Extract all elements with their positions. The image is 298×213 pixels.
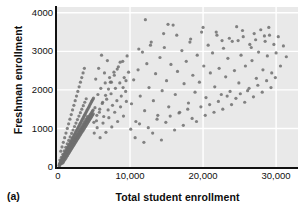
plot-area [57, 7, 298, 167]
x-axis-ticks: 0 10,000 20,000 30,000 [0, 170, 298, 184]
x-axis-line [55, 167, 298, 169]
x-tick-10000: 10,000 [115, 170, 144, 181]
data-points [57, 18, 287, 167]
y-tick-2000: 2000 [1, 85, 53, 95]
plot-canvas [57, 7, 298, 167]
x-axis-title: Total student enrollment [57, 191, 298, 203]
x-tick-0: 0 [55, 170, 60, 181]
y-tick-4000: 4000 [1, 8, 53, 18]
panel-caption: (a) [7, 190, 20, 202]
y-axis-title: Freshman enrollment [12, 10, 24, 150]
x-tick-20000: 20,000 [188, 170, 217, 181]
y-tick-1000: 1000 [1, 124, 53, 134]
gridlines [57, 7, 298, 167]
y-tick-3000: 3000 [1, 46, 53, 56]
x-tick-30000: 30,000 [261, 170, 290, 181]
scatter-figure: 4000 3000 2000 1000 0 Freshman enrollmen… [0, 0, 298, 213]
